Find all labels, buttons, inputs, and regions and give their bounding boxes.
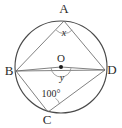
angle-label-y: y — [59, 72, 65, 83]
center-point-dot — [59, 65, 63, 69]
geometry-figure: A B C D O x y 100° — [0, 0, 122, 128]
radius-od — [61, 67, 105, 70]
center-label-o: O — [57, 52, 65, 64]
angle-arc-c — [56, 98, 60, 104]
geometry-canvas: A B C D O x y 100° — [0, 0, 122, 128]
angle-label-100-degrees: 100° — [42, 88, 61, 99]
chord-ad — [64, 21, 105, 70]
vertex-label-b: B — [5, 63, 14, 78]
vertex-label-d: D — [107, 62, 116, 77]
angle-label-x: x — [61, 27, 67, 38]
vertex-label-c: C — [43, 112, 52, 127]
vertex-label-a: A — [59, 1, 69, 16]
